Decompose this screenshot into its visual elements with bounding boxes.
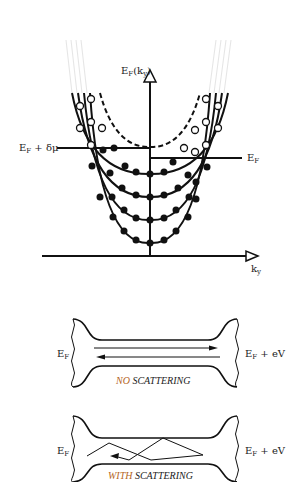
left-contact-edge (72, 319, 75, 387)
right-contact-edge (236, 416, 239, 482)
wire-top-boundary (73, 416, 237, 438)
figure: EF(ky) ky EF + δμ EF EF EF + eV NO SCATT… (0, 0, 291, 482)
scattering-trajectory (87, 438, 203, 460)
right-contact-edge (236, 319, 239, 387)
backward-arrow-head-icon (96, 355, 105, 360)
left-contact-edge (72, 416, 75, 482)
no-scattering-panel: EF EF + eV NO SCATTERING (57, 319, 286, 387)
caption: WITH SCATTERING (108, 470, 193, 481)
dispersion-diagram: EF(ky) ky EF + δμ EF (19, 40, 261, 276)
diagram-canvas: EF(ky) ky EF + δμ EF EF EF + eV NO SCATT… (0, 0, 291, 482)
right-level-label: EF + eV (245, 348, 286, 361)
energy-axis-label: EF(ky) (121, 65, 151, 78)
right-fermi-level-label: EF (247, 152, 259, 165)
right-level-label: EF + eV (245, 445, 286, 458)
with-scattering-panel: EF EF + eV WITH SCATTERING (57, 416, 286, 482)
trajectory-arrow-head-icon (110, 453, 119, 459)
k-axis-label: ky (251, 263, 261, 276)
left-level-label: EF (57, 348, 69, 361)
wire-top-boundary (73, 319, 237, 340)
left-level-label: EF (57, 445, 69, 458)
forward-arrow-head-icon (209, 346, 218, 351)
k-axis-arrow-icon (246, 251, 258, 261)
left-fermi-level-label: EF + δμ (19, 142, 59, 155)
caption: NO SCATTERING (115, 375, 190, 386)
